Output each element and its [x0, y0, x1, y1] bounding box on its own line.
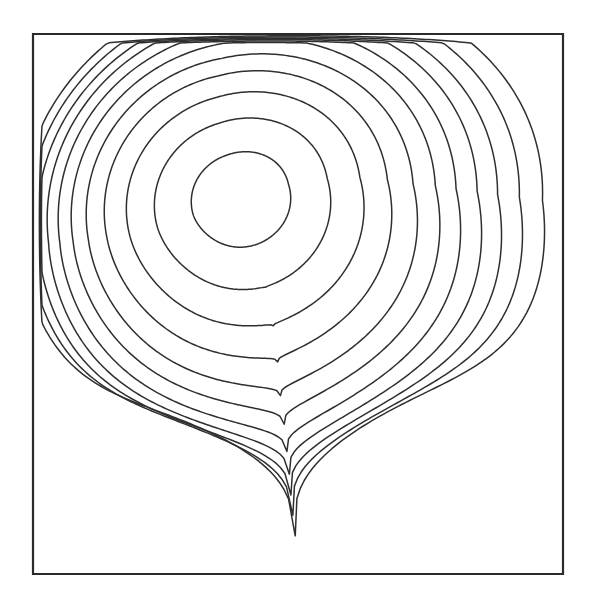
plot-background	[0, 0, 596, 609]
contour-figure	[0, 0, 596, 609]
contour-plot-canvas	[0, 0, 596, 609]
